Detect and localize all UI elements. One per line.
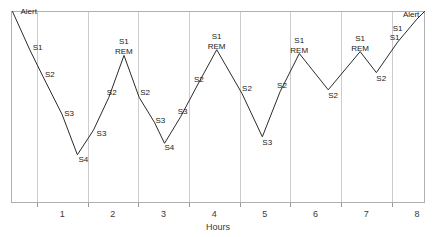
stage-label-s2: S2 — [194, 75, 204, 84]
x-axis-title: Hours — [206, 222, 231, 232]
stage-label-s2: S2 — [140, 88, 150, 97]
stage-label-s1: S1 — [33, 43, 43, 52]
stage-label-s3: S3 — [178, 107, 188, 116]
stage-label-alert: Alert — [21, 7, 38, 16]
stage-label-rem: REM — [208, 42, 226, 51]
x-tick-label: 3 — [161, 209, 166, 219]
stage-label-s3: S3 — [262, 138, 272, 147]
stage-label-rem: REM — [351, 44, 369, 53]
stage-label-s1: S1 — [119, 37, 129, 46]
stage-label-s1: S1 — [212, 32, 222, 41]
stage-label-rem: REM — [290, 46, 308, 55]
stage-label-alert: Alert — [403, 10, 420, 19]
stage-label-s1: S1 — [294, 36, 304, 45]
stage-label-s2: S2 — [376, 74, 386, 83]
stage-label-s1: S1 — [390, 33, 400, 42]
stage-label-s3: S3 — [64, 109, 74, 118]
stage-label-s2: S2 — [242, 84, 252, 93]
stage-label-s3: S3 — [97, 129, 107, 138]
stage-labels-group: AlertS1S2S3S4S3S2REMS2S3S4S3S2REMS2S3S2R… — [21, 7, 421, 164]
stage-label-s1: S1 — [393, 24, 403, 33]
stage-label-s1: S1 — [355, 34, 365, 43]
x-tick-label: 5 — [262, 209, 267, 219]
x-tick-label: 4 — [212, 209, 217, 219]
stage-label-s2: S2 — [45, 70, 55, 79]
stage-label-rem: REM — [115, 47, 133, 56]
x-tick-label: 1 — [60, 209, 65, 219]
stage-label-s2: S2 — [328, 91, 338, 100]
hypnogram-chart: AlertS1S2S3S4S3S2REMS2S3S4S3S2REMS2S3S2R… — [0, 0, 437, 237]
stage-label-s2: S2 — [107, 88, 117, 97]
x-tick-label: 2 — [110, 209, 115, 219]
x-tick-label: 6 — [313, 209, 318, 219]
hypnogram-plot: AlertS1S2S3S4S3S2REMS2S3S4S3S2REMS2S3S2R… — [0, 0, 437, 237]
stage-label-s4: S4 — [78, 155, 88, 164]
tickmarks-group — [38, 203, 393, 207]
stage-label-s3: S3 — [155, 116, 165, 125]
x-tick-label: 8 — [414, 209, 419, 219]
x-tick-labels-group: 12345678 — [60, 209, 420, 219]
stage-label-s4: S4 — [165, 143, 175, 152]
x-tick-label: 7 — [364, 209, 369, 219]
stage-label-s2: S2 — [277, 81, 287, 90]
